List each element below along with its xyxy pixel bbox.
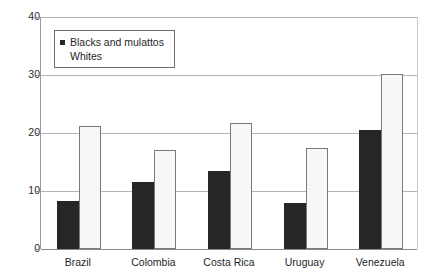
bar-chart: 010203040 BrazilColombiaCosta RicaUrugua… [0, 0, 433, 277]
y-tick-mark-0 [36, 249, 40, 250]
y-tick-label-40: 40 [6, 11, 40, 22]
legend-swatch-light-icon [60, 54, 65, 59]
x-label-colombia: Colombia [116, 252, 192, 272]
bar-costa-rica-blacks-and-mulattos [208, 171, 230, 249]
gridline-0 [41, 249, 417, 250]
x-axis-labels: BrazilColombiaCosta RicaUruguayVenezuela [40, 252, 418, 274]
bar-venezuela-blacks-and-mulattos [359, 130, 381, 249]
bar-venezuela-whites [381, 74, 403, 249]
bar-uruguay-whites [306, 148, 328, 249]
bar-group-uruguay [284, 17, 328, 249]
y-tick-label-10: 10 [6, 185, 40, 196]
x-label-uruguay: Uruguay [267, 252, 343, 272]
bar-uruguay-blacks-and-mulattos [284, 203, 306, 249]
bar-group-venezuela [359, 17, 403, 249]
legend-swatch-dark-icon [60, 40, 65, 45]
bar-brazil-blacks-and-mulattos [57, 201, 79, 249]
y-tick-label-30: 30 [6, 69, 40, 80]
x-label-costa-rica: Costa Rica [191, 252, 267, 272]
bar-costa-rica-whites [230, 123, 252, 249]
x-label-venezuela: Venezuela [342, 252, 418, 272]
x-label-brazil: Brazil [40, 252, 116, 272]
y-tick-label-20: 20 [6, 127, 40, 138]
legend-label: Whites [70, 49, 102, 63]
bar-colombia-blacks-and-mulattos [132, 182, 154, 249]
chart-legend: Blacks and mulattosWhites [54, 30, 175, 68]
legend-item-1: Blacks and mulattos [60, 35, 164, 49]
y-axis: 010203040 [0, 0, 40, 277]
bar-group-costa-rica [208, 17, 252, 249]
bar-colombia-whites [154, 150, 176, 249]
bar-brazil-whites [79, 126, 101, 249]
legend-label: Blacks and mulattos [70, 35, 164, 49]
y-tick-label-0: 0 [6, 243, 40, 254]
legend-item-2: Whites [60, 49, 164, 63]
